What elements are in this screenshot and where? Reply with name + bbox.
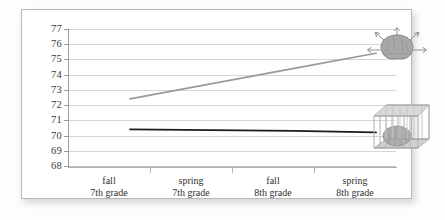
y-axis-tick-label: 75 bbox=[38, 54, 62, 64]
x-axis-category-line: 8th grade bbox=[232, 187, 314, 199]
y-axis-tick-mark bbox=[64, 136, 68, 137]
gridline bbox=[68, 151, 396, 152]
x-axis-tick-separator bbox=[314, 167, 315, 173]
gridline bbox=[68, 44, 396, 45]
gridline bbox=[68, 90, 396, 91]
x-axis-category-line: 7th grade bbox=[150, 187, 232, 199]
x-axis-tick-separator bbox=[232, 167, 233, 173]
y-axis-tick-label: 77 bbox=[38, 24, 62, 34]
x-axis-tick-separator bbox=[150, 167, 151, 173]
gridline bbox=[68, 29, 396, 30]
gridline bbox=[68, 105, 396, 106]
y-axis-tick-mark bbox=[64, 59, 68, 60]
chart-screenshot: 77767574737271706968 fall7th gradespring… bbox=[0, 0, 445, 220]
y-axis-tick-mark bbox=[64, 151, 68, 152]
gridline bbox=[68, 136, 396, 137]
y-axis-tick-mark bbox=[64, 75, 68, 76]
y-axis-line bbox=[68, 29, 69, 168]
y-axis-tick-mark bbox=[64, 90, 68, 91]
x-axis-category-label: spring7th grade bbox=[150, 175, 232, 198]
y-axis-tick-mark bbox=[64, 120, 68, 121]
x-axis-category-label: fall7th grade bbox=[68, 175, 150, 198]
x-axis-category-line: fall bbox=[68, 175, 150, 187]
y-axis-tick-mark bbox=[64, 105, 68, 106]
y-axis-tick-mark bbox=[64, 166, 68, 167]
x-axis-category-line: spring bbox=[314, 175, 396, 187]
x-axis-category-line: 7th grade bbox=[68, 187, 150, 199]
x-axis-category-label: fall8th grade bbox=[232, 175, 314, 198]
x-axis-category-label: spring8th grade bbox=[314, 175, 396, 198]
gridline bbox=[68, 120, 396, 121]
plot-area bbox=[68, 29, 396, 166]
gridline bbox=[68, 59, 396, 60]
x-axis-category-line: fall bbox=[232, 175, 314, 187]
y-axis-tick-label: 70 bbox=[38, 131, 62, 141]
y-axis-tick-label: 76 bbox=[38, 39, 62, 49]
y-axis-tick-label: 73 bbox=[38, 85, 62, 95]
gridline bbox=[68, 75, 396, 76]
chart-card: 77767574737271706968 fall7th gradespring… bbox=[21, 9, 412, 199]
y-axis-tick-label: 74 bbox=[38, 70, 62, 80]
brain-expanding-icon bbox=[360, 26, 434, 70]
x-axis-category-line: spring bbox=[150, 175, 232, 187]
y-axis-tick-label: 68 bbox=[38, 161, 62, 171]
y-axis-tick-label: 69 bbox=[38, 146, 62, 156]
y-axis-tick-label: 72 bbox=[38, 100, 62, 110]
brain-caged-icon bbox=[362, 102, 434, 158]
y-axis-labels: 77767574737271706968 bbox=[32, 10, 62, 220]
y-axis-tick-label: 71 bbox=[38, 115, 62, 125]
x-axis-category-line: 8th grade bbox=[314, 187, 396, 199]
y-axis-tick-mark bbox=[64, 29, 68, 30]
y-axis-tick-mark bbox=[64, 44, 68, 45]
